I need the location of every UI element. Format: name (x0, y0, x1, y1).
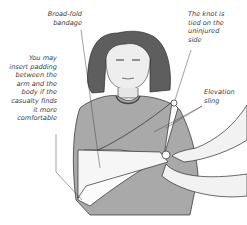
label-broad-fold-bandage: Broad-fold bandage (30, 10, 82, 27)
label-elevation-sling: Elevation sling (204, 88, 246, 105)
label-padding-note: You may insert padding between the arm a… (0, 54, 57, 123)
label-knot-uninjured-side: The knot is tied on the uninjured side (188, 10, 246, 44)
face (106, 44, 150, 90)
knot (171, 100, 177, 106)
leader-knot (175, 50, 191, 100)
